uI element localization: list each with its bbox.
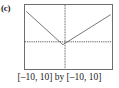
panel-label: (c) — [1, 3, 10, 13]
calculator-screen — [24, 4, 113, 70]
graph-plot-area — [25, 5, 112, 69]
figure-panel: (c) [–10, 10] by [–10, 10] — [0, 0, 119, 88]
curve-right-branch — [63, 15, 111, 45]
curve-left-branch — [26, 11, 63, 44]
window-caption: [–10, 10] by [–10, 10] — [0, 71, 119, 84]
